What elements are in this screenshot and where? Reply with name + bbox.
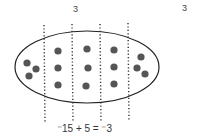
counter	[23, 59, 30, 66]
counter	[82, 82, 89, 89]
division-diagram	[0, 0, 207, 136]
group-4	[110, 46, 117, 87]
group-1	[23, 59, 39, 79]
counter	[137, 53, 144, 60]
counter	[25, 72, 32, 79]
divider-line-3	[100, 24, 101, 121]
division-equation: ⁻15 + 5 = ⁻3	[57, 123, 112, 135]
counter	[84, 64, 91, 71]
counter	[54, 47, 61, 54]
counter	[83, 45, 90, 52]
counter	[110, 80, 117, 87]
divider-line-2	[72, 24, 73, 122]
counter	[133, 64, 140, 71]
group-3	[82, 45, 91, 89]
counter	[110, 46, 117, 53]
counter	[141, 70, 148, 77]
group-5	[133, 53, 148, 77]
divider-line-1	[44, 25, 45, 122]
counter	[32, 65, 39, 72]
group-dividers	[44, 23, 129, 122]
divider-line-4	[128, 23, 129, 120]
counters	[23, 45, 148, 89]
group-2	[54, 47, 61, 88]
counter	[110, 63, 117, 70]
counter	[54, 81, 61, 88]
counter	[54, 64, 61, 71]
